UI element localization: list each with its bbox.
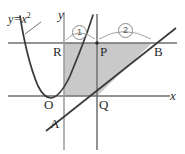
x-axis-label: x [170,89,176,102]
point-label-a: A [50,117,59,130]
point-label-r: R [53,45,62,58]
point-label-o: O [44,98,53,111]
geometry-figure: y=x2 y x R P B O Q A 1 2 [0,0,185,154]
point-label-q: Q [99,98,108,111]
point-p-dot [95,41,99,45]
point-label-p: P [100,45,107,58]
point-label-b: B [154,45,163,58]
region-marker-one: 1 [72,25,87,40]
y-axis-label: y [58,8,64,21]
shaded-regions [64,43,152,96]
region-marker-two: 2 [118,23,133,38]
curve-equation-label: y=x2 [8,12,31,25]
